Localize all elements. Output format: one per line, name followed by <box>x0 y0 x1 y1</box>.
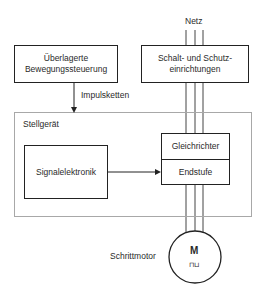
signal-electronics-box: Signalelektronik <box>24 145 108 199</box>
motion-control-line2: Bewegungssteuerung <box>25 64 107 75</box>
protection-line1: Schalt- und Schutz- <box>158 53 232 64</box>
rectifier-label: Gleichrichter <box>172 141 220 152</box>
step-pulse-icon: ⊓⊔ <box>189 259 199 270</box>
pulse-signal-label: Impulsketten <box>81 90 129 101</box>
output-stage-label: Endstufe <box>179 167 213 178</box>
motion-control-box: Überlagerte Bewegungssteuerung <box>14 45 118 83</box>
signal-electronics-label: Signalelektronik <box>36 167 96 178</box>
motor-symbol: M <box>190 245 198 256</box>
motor-label: Schrittmotor <box>110 251 156 262</box>
motor-circle <box>169 231 221 283</box>
supply-label: Netz <box>185 16 202 27</box>
protection-box: Schalt- und Schutz- einrichtungen <box>141 45 249 83</box>
protection-line2: einrichtungen <box>158 64 232 75</box>
output-stage-box: Endstufe <box>161 159 230 185</box>
motion-control-line1: Überlagerte <box>25 53 107 64</box>
rectifier-box: Gleichrichter <box>161 133 230 160</box>
actuator-label: Stellgerät <box>23 119 59 130</box>
